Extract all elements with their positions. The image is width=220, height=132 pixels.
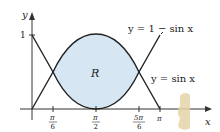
x-axis-label: x bbox=[205, 116, 211, 127]
curve-label-1-minus-sin: y = 1 − sin x bbox=[127, 23, 193, 34]
region-label-r: R bbox=[90, 67, 99, 80]
tick-label-5pi6-den: 6 bbox=[137, 123, 142, 131]
tick-label-pi: π bbox=[156, 115, 162, 123]
tick-label-pi6-num: π bbox=[49, 114, 55, 122]
scan-artifact bbox=[178, 93, 190, 130]
tick-label-pi6-den: 6 bbox=[51, 123, 56, 131]
curve-label-sin: y = sin x bbox=[150, 73, 195, 84]
tick-label-5pi6-num: 5π bbox=[134, 114, 143, 122]
x-axis-arrow-icon bbox=[205, 106, 212, 112]
y-axis-arrow-icon bbox=[29, 12, 35, 20]
y-axis-label: y bbox=[21, 9, 28, 20]
tick-label-pi2-num: π bbox=[92, 114, 98, 122]
tick-label-pi2-den: 2 bbox=[94, 123, 98, 131]
graph: y 1 x y = 1 − sin x y = sin x R π 6 π 2 … bbox=[0, 0, 220, 132]
y-tick-label-1: 1 bbox=[20, 30, 26, 40]
